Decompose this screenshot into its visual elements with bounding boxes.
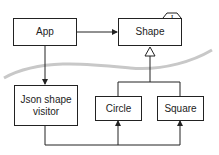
decorative-swoosh — [4, 50, 212, 78]
node-shape: Shape — [118, 18, 182, 46]
node-square: Square — [157, 96, 204, 121]
node-app: App — [13, 18, 77, 46]
visitor-to-concrete-lines — [45, 125, 180, 145]
node-circle: Circle — [95, 96, 142, 121]
node-circle-label: Circle — [106, 103, 132, 115]
node-json-visitor: Json shape visitor — [14, 85, 78, 126]
node-shape-label: Shape — [136, 26, 165, 38]
node-square-label: Square — [164, 103, 196, 115]
inheritance-triangle-icon — [145, 47, 155, 56]
node-json-visitor-label: Json shape visitor — [19, 94, 73, 118]
inheritance-branches — [118, 82, 180, 96]
node-app-label: App — [36, 26, 54, 38]
